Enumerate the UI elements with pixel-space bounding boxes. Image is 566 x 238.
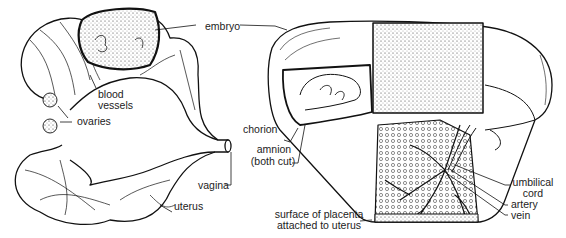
- diagram-figure: embryo blood vessels ovaries vagina uter…: [0, 0, 566, 238]
- label-vagina: vagina: [198, 180, 229, 191]
- label-chorion: chorion: [243, 124, 277, 135]
- uterus-drawing: [15, 9, 231, 225]
- label-embryo: embryo: [205, 21, 240, 32]
- label-uterus: uterus: [174, 201, 203, 212]
- label-blood-vessels-line2: vessels: [98, 100, 133, 111]
- label-ovaries: ovaries: [77, 116, 111, 127]
- label-placenta-line2: attached to uterus: [274, 220, 364, 231]
- label-amnion-line1: amnion: [250, 144, 298, 155]
- label-amnion-line2: (both cut): [246, 156, 300, 167]
- label-vein: vein: [511, 210, 530, 221]
